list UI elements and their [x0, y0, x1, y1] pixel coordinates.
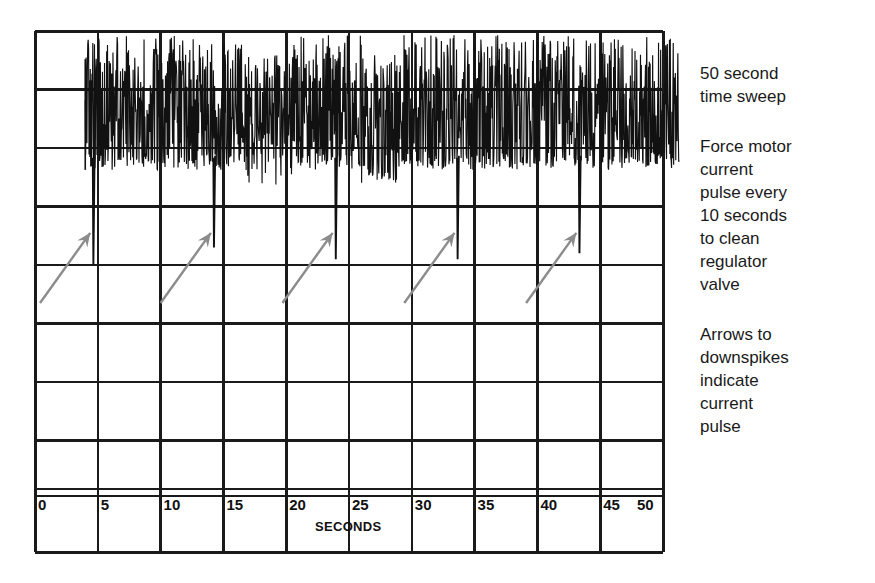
annotation-column: 50 second time sweepForce motor current … — [700, 62, 870, 465]
x-tick-label-15: 15 — [226, 497, 243, 512]
x-tick-label-25: 25 — [352, 497, 369, 512]
arrow-to-downspike — [282, 233, 332, 303]
annotation-sweep-note: 50 second time sweep — [700, 62, 870, 108]
x-tick-label-45: 45 — [603, 497, 620, 512]
current-pulse-downspike — [335, 156, 337, 259]
figure-root: 05101520253035404550 SECONDS 50 second t… — [0, 0, 875, 583]
current-pulse-downspike — [93, 156, 95, 265]
x-tick-label-50: 50 — [637, 497, 654, 512]
arrow-shaft — [526, 233, 576, 303]
x-tick-label-20: 20 — [289, 497, 306, 512]
x-tick-label-40: 40 — [540, 497, 557, 512]
arrow-shaft — [282, 233, 332, 303]
arrow-shaft — [40, 233, 90, 303]
x-tick-label-35: 35 — [478, 497, 495, 512]
annotation-arrow-note: Arrows to downspikes indicate current pu… — [700, 323, 870, 438]
x-tick-label-0: 0 — [38, 497, 46, 512]
current-pulse-downspike — [457, 156, 459, 259]
current-pulse-downspike — [579, 156, 581, 253]
x-tick-label-10: 10 — [164, 497, 181, 512]
arrow-to-downspike — [161, 233, 211, 303]
current-pulse-downspike — [213, 156, 215, 248]
x-axis-title: SECONDS — [315, 519, 381, 534]
chart-plot-area — [35, 31, 663, 552]
chart-svg — [35, 31, 663, 552]
arrow-shaft — [161, 233, 211, 303]
annotation-arrows — [40, 233, 576, 303]
x-tick-label-5: 5 — [101, 497, 109, 512]
arrow-to-downspike — [526, 233, 576, 303]
noise-band-path — [85, 35, 679, 184]
annotation-pulse-note: Force motor current pulse every 10 secon… — [700, 135, 870, 296]
x-tick-label-30: 30 — [415, 497, 432, 512]
arrow-to-downspike — [40, 233, 90, 303]
signal-trace — [85, 35, 679, 265]
